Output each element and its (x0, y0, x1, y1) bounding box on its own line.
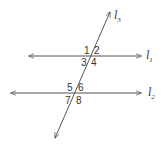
angle-6: 6 (78, 82, 84, 93)
angle-8: 8 (76, 95, 82, 106)
angle-3: 3 (81, 57, 87, 68)
angle-5: 5 (67, 82, 73, 93)
angle-7: 7 (65, 95, 71, 106)
label-l2: l2 (148, 85, 155, 101)
angle-1: 1 (84, 45, 90, 56)
label-l1: l1 (146, 48, 153, 64)
angle-2: 2 (94, 45, 100, 56)
angle-4: 4 (91, 57, 97, 68)
line-l3-transversal (55, 12, 110, 138)
label-l3: l3 (114, 8, 121, 24)
diagram-canvas: l3 l1 l2 1 2 3 4 5 6 7 8 (0, 0, 163, 145)
